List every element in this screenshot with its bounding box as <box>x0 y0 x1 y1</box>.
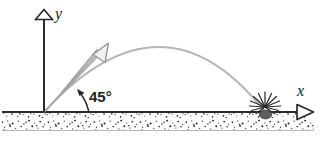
angle-label: 45° <box>89 88 112 105</box>
angle-annotation: 45° <box>78 88 112 111</box>
x-axis-label: x <box>296 82 304 99</box>
figure-canvas: x y 45° <box>0 0 324 148</box>
y-axis-label: y <box>53 5 63 23</box>
trajectory-path <box>44 47 265 112</box>
impact-blob <box>259 110 271 119</box>
projectile-motion-figure: x y 45° <box>0 0 324 148</box>
y-axis-arrowhead-icon <box>36 10 53 20</box>
angle-arc-arrowhead-icon <box>78 90 85 96</box>
